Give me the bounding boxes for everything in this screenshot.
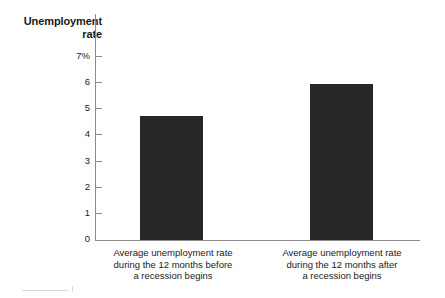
y-tick-label: 4 [54, 128, 90, 139]
bar-caption-after-recession: Average unemployment rate during the 12 … [266, 247, 418, 282]
y-tick-mark [96, 108, 102, 109]
x-axis-line [95, 240, 420, 241]
y-tick-label: 5 [54, 102, 90, 113]
y-tick-mark [96, 161, 102, 162]
y-tick-mark [96, 213, 102, 214]
y-tick-label: 7% [54, 50, 90, 61]
page-edge-artifact-tick [72, 286, 73, 292]
y-axis-line [95, 14, 96, 241]
y-tick-mark [96, 134, 102, 135]
caption-line-1: Average unemployment rate [266, 247, 418, 259]
caption-line-3: a recession begins [266, 270, 418, 282]
y-tick-label: 3 [54, 155, 90, 166]
y-tick-mark [96, 187, 102, 188]
caption-line-3: a recession begins [97, 270, 249, 282]
page-edge-artifact [22, 290, 68, 291]
bar-caption-before-recession: Average unemployment rate during the 12 … [97, 247, 249, 282]
y-tick-label: 0 [54, 233, 90, 244]
bar-before-recession [140, 116, 203, 240]
y-tick-label: 1 [54, 207, 90, 218]
caption-line-1: Average unemployment rate [97, 247, 249, 259]
plot-area: 7% 6 5 4 3 2 1 0 [0, 0, 445, 298]
bar-after-recession [310, 84, 373, 240]
unemployment-rate-bar-chart: Unemployment rate 7% 6 5 4 3 2 [0, 0, 445, 298]
y-tick-mark [96, 82, 102, 83]
y-tick-label: 6 [54, 76, 90, 87]
caption-line-2: during the 12 months before [97, 259, 249, 271]
caption-line-2: during the 12 months after [266, 259, 418, 271]
y-tick-label: 2 [54, 181, 90, 192]
y-tick-mark [96, 56, 102, 57]
